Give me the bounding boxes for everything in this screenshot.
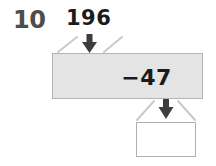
- problem-number: 10: [13, 8, 45, 32]
- math-worksheet-problem: 10 196 −47: [0, 0, 216, 166]
- arrow-down-icon: [159, 99, 174, 119]
- output-funnel-right-line: [178, 101, 195, 120]
- operation-box: −47: [52, 53, 203, 99]
- answer-box[interactable]: [136, 122, 196, 157]
- input-funnel-right-line: [104, 37, 122, 52]
- input-value-label: 196: [66, 8, 111, 29]
- output-funnel-left-line: [137, 101, 154, 120]
- input-funnel-left-line: [58, 37, 77, 52]
- operation-label: −47: [53, 54, 204, 100]
- arrow-down-icon: [82, 34, 97, 53]
